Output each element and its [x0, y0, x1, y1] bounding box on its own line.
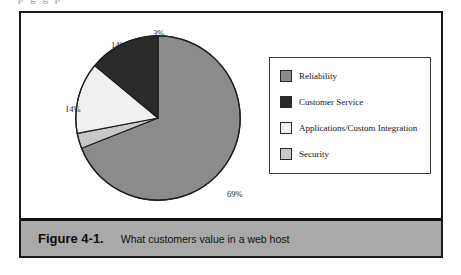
figure-frame: 69% 3% 14% 14% Reliability Customer Serv…: [19, 11, 443, 258]
figure-caption-text: What customers value in a web host: [121, 233, 290, 245]
pie-label-security: 3%: [153, 28, 164, 38]
legend-label-applications: Applications/Custom Integration: [299, 124, 417, 133]
figure-number: Figure 4-1.: [38, 231, 104, 246]
pie-label-applications: 14%: [111, 40, 127, 50]
pie-label-customer-service: 14%: [65, 104, 81, 114]
pie-slice-group: [76, 36, 240, 200]
legend-label-customer-service: Customer Service: [299, 98, 363, 107]
legend-item-customer-service: Customer Service: [280, 95, 363, 109]
legend-item-security: Security: [280, 147, 329, 161]
chart-plot-area: 69% 3% 14% 14% Reliability Customer Serv…: [21, 13, 441, 218]
legend-item-reliability: Reliability: [280, 69, 337, 83]
legend-label-security: Security: [299, 150, 329, 159]
pie-label-reliability: 69%: [227, 189, 243, 199]
chart-legend: Reliability Customer Service Application…: [269, 57, 431, 174]
legend-swatch-reliability: [280, 70, 292, 82]
figure-caption-bar: Figure 4-1. What customers value in a we…: [21, 218, 441, 256]
legend-swatch-customer-service: [280, 96, 292, 108]
legend-item-applications: Applications/Custom Integration: [280, 121, 417, 135]
legend-swatch-security: [280, 148, 292, 160]
legend-swatch-applications: [280, 122, 292, 134]
legend-label-reliability: Reliability: [299, 72, 337, 81]
page-text-bleed: p g g p: [0, 0, 461, 9]
pie-chart: [74, 34, 242, 202]
pie-chart-svg: [74, 34, 242, 202]
